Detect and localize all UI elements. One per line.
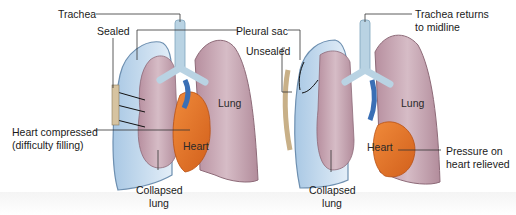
sealed-patch <box>112 85 119 125</box>
label-sealed: Sealed <box>97 25 130 37</box>
label-collapsed-right-line2: lung <box>309 197 355 209</box>
label-collapsed-left-line2: lung <box>136 197 182 209</box>
label-collapsed-right-line1: Collapsed <box>309 184 355 196</box>
left-trachea <box>175 20 185 70</box>
label-heart-right: Heart <box>367 141 393 153</box>
right-collapsed-lung <box>317 51 354 170</box>
label-collapsed-left-line1: Collapsed <box>136 184 182 196</box>
label-heart-compressed-line1: Heart compressed <box>12 126 98 138</box>
tension-pneumothorax-diagram: Trachea Sealed Pleural sac Unsealed Trac… <box>0 0 516 215</box>
right-trachea <box>360 20 370 72</box>
label-unsealed: Unsealed <box>246 45 290 57</box>
label-trachea-returns-line2: to midline <box>415 21 460 33</box>
unsealed-flap <box>285 70 290 150</box>
label-pleural-sac: Pleural sac <box>236 25 288 37</box>
label-lung-right: Lung <box>401 97 424 109</box>
label-pressure-line2: heart relieved <box>446 158 510 170</box>
label-heart-left: Heart <box>183 140 209 152</box>
label-lung-left: Lung <box>218 97 241 109</box>
right-vessel <box>370 80 374 120</box>
label-trachea-returns-line1: Trachea returns <box>415 8 489 20</box>
label-trachea: Trachea <box>58 8 96 20</box>
label-heart-compressed-line2: (difficulty filling) <box>12 139 84 151</box>
label-pressure-line1: Pressure on <box>446 145 503 157</box>
